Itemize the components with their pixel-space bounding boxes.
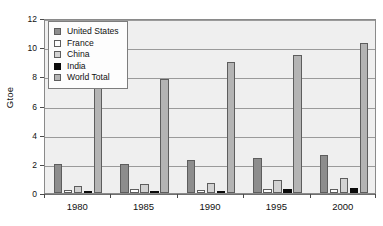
legend-swatch-icon <box>54 63 61 70</box>
legend-label: India <box>67 62 86 71</box>
bar-united-states-1985 <box>120 164 128 193</box>
x-tick-mark <box>243 194 244 198</box>
legend-label: United States <box>67 27 119 36</box>
x-axis: 19801985199019952000 <box>44 194 376 226</box>
legend-label: China <box>67 50 89 59</box>
bar-united-states-2000 <box>320 155 328 193</box>
bar-united-states-1995 <box>253 158 261 193</box>
bar-france-1980 <box>64 190 72 193</box>
legend-item-world-total: World Total <box>54 72 119 84</box>
bar-india-1980 <box>84 191 92 193</box>
bar-china-1985 <box>140 184 148 193</box>
legend-item-china: China <box>54 49 119 61</box>
bar-india-1990 <box>217 191 225 193</box>
bar-france-1995 <box>263 189 271 193</box>
y-axis-title: Gtoe <box>4 75 15 121</box>
y-tick-label: 12 <box>28 15 37 24</box>
bar-world-total-2000 <box>360 43 368 193</box>
legend-swatch-icon <box>54 40 61 47</box>
legend-item-france: France <box>54 38 119 50</box>
legend-swatch-icon <box>54 28 61 35</box>
x-tick-mark <box>177 194 178 198</box>
legend-label: World Total <box>67 73 110 82</box>
bar-united-states-1980 <box>54 164 62 193</box>
legend-swatch-icon <box>54 74 61 81</box>
bar-world-total-1990 <box>227 62 235 193</box>
y-tick-label: 2 <box>32 161 37 170</box>
legend-swatch-icon <box>54 51 61 58</box>
x-tick-label-1980: 1980 <box>44 202 110 212</box>
bar-india-1985 <box>150 191 158 193</box>
bar-world-total-1995 <box>293 55 301 193</box>
y-tick-label: 10 <box>28 44 37 53</box>
bar-united-states-1990 <box>187 160 195 193</box>
bar-france-2000 <box>330 189 338 193</box>
y-axis: Gtoe 024681012 <box>0 0 44 226</box>
chart-legend: United StatesFranceChinaIndiaWorld Total <box>48 21 128 89</box>
x-tick-mark <box>375 194 376 198</box>
x-tick-label-2000: 2000 <box>310 202 376 212</box>
x-tick-mark <box>110 194 111 198</box>
x-tick-mark <box>44 194 45 198</box>
bar-world-total-1980 <box>94 88 102 193</box>
x-tick-label-1985: 1985 <box>110 202 176 212</box>
bar-france-1990 <box>197 190 205 193</box>
x-tick-label-1995: 1995 <box>243 202 309 212</box>
bar-china-1990 <box>207 183 215 193</box>
legend-item-india: India <box>54 61 119 73</box>
legend-label: France <box>67 39 94 48</box>
bar-france-1985 <box>130 189 138 193</box>
y-tick-label: 0 <box>32 190 37 199</box>
bar-world-total-1985 <box>160 79 168 193</box>
bar-china-1980 <box>74 186 82 193</box>
y-tick-label: 8 <box>32 73 37 82</box>
y-tick-label: 6 <box>32 103 37 112</box>
x-tick-mark <box>310 194 311 198</box>
bar-india-1995 <box>283 189 291 193</box>
bar-india-2000 <box>350 188 358 193</box>
legend-item-united-states: United States <box>54 26 119 38</box>
x-tick-label-1990: 1990 <box>177 202 243 212</box>
energy-consumption-bar-chart: Gtoe 024681012 19801985199019952000 Unit… <box>0 0 383 226</box>
bar-china-1995 <box>273 180 281 193</box>
y-tick-label: 4 <box>32 132 37 141</box>
bar-china-2000 <box>340 178 348 193</box>
